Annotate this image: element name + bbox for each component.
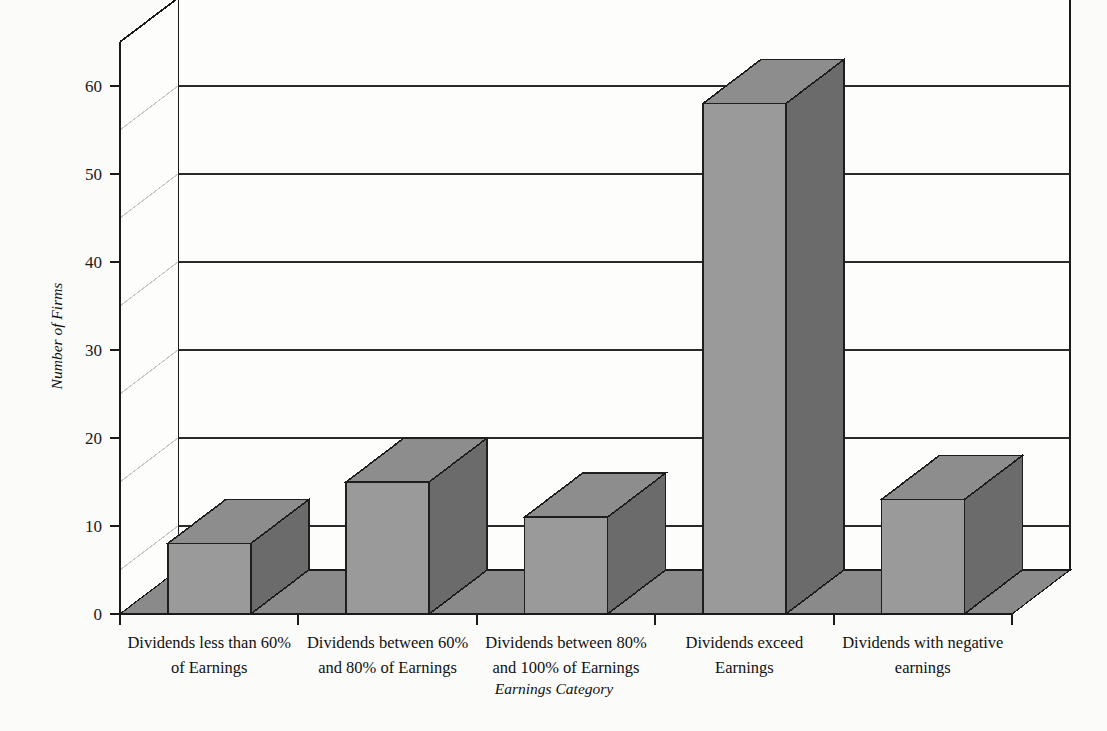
x-axis-category-label: and 100% of Earnings xyxy=(492,658,639,677)
chart-container: 0102030405060 Dividends less than 60%of … xyxy=(0,0,1107,731)
y-axis-tick-label: 0 xyxy=(94,605,103,624)
y-axis-tick-label: 50 xyxy=(85,165,102,184)
bar-front-face xyxy=(703,104,786,614)
y-axis-title: Number of Firms xyxy=(48,283,65,391)
y-axis-tick-label: 60 xyxy=(85,77,102,96)
x-axis-title: Earnings Category xyxy=(494,680,614,697)
y-axis-tick-label: 20 xyxy=(85,429,102,448)
chart-plot-area xyxy=(120,0,1070,614)
y-axis-tick-label: 10 xyxy=(85,517,102,536)
bar-chart-3d: 0102030405060 Dividends less than 60%of … xyxy=(0,0,1107,731)
bar-front-face xyxy=(346,482,429,614)
x-axis-category-label: Dividends less than 60% xyxy=(127,633,291,652)
x-axis-category-label: Dividends between 80% xyxy=(485,633,647,652)
bar-side-face xyxy=(786,60,844,614)
x-axis-category-label: Dividends exceed xyxy=(686,633,804,652)
x-axis-category-label: and 80% of Earnings xyxy=(318,658,457,677)
x-axis-category-label: of Earnings xyxy=(171,658,248,677)
bar-front-face xyxy=(881,500,964,614)
x-axis-category-label: Dividends between 60% xyxy=(307,633,469,652)
y-axis-tick-label: 30 xyxy=(85,341,102,360)
bar-front-face xyxy=(525,517,608,614)
x-axis-category-label: Earnings xyxy=(715,658,774,677)
x-axis-category-label: Dividends with negative xyxy=(842,633,1003,652)
bar-front-face xyxy=(168,544,251,614)
y-axis-tick-label: 40 xyxy=(85,253,102,272)
bar xyxy=(703,60,844,614)
x-axis-category-label: earnings xyxy=(895,658,951,677)
